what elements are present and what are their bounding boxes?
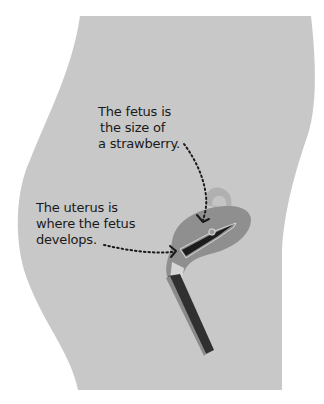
uterus-annotation: The uterus is where the fetus develops.	[36, 200, 135, 248]
fetus-annotation-line-1: The fetus is	[98, 104, 180, 120]
fetus-annotation: The fetus is the size of a strawberry.	[98, 104, 180, 152]
fetus-annotation-line-2: the size of	[98, 120, 180, 136]
fetus-annotation-line-3: a strawberry.	[98, 136, 180, 152]
fetus-shape	[209, 229, 215, 235]
uterus-annotation-line-2: where the fetus	[36, 216, 135, 232]
uterus-annotation-line-1: The uterus is	[36, 200, 135, 216]
uterus-annotation-line-3: develops.	[36, 232, 135, 248]
